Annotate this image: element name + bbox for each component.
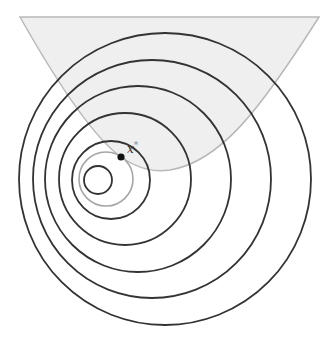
- optimization-diagram: x*: [0, 0, 329, 341]
- optimum-point: [117, 153, 124, 160]
- optimum-label-star: *: [134, 140, 139, 150]
